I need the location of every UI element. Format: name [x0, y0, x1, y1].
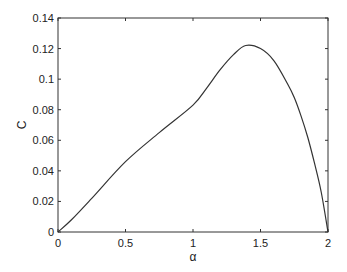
x-axis-ticks: 00.511.52 — [55, 18, 331, 249]
x-tick-label: 0.5 — [118, 237, 133, 249]
axes-frame — [58, 18, 328, 232]
x-axis-label: α — [190, 250, 197, 264]
line-chart: 00.511.52 00.020.040.060.080.10.120.14 α… — [0, 0, 347, 272]
y-tick-label: 0.14 — [33, 12, 54, 24]
y-tick-label: 0.08 — [33, 104, 54, 116]
y-axis-label: C — [15, 120, 29, 129]
x-tick-label: 2 — [325, 237, 331, 249]
y-tick-label: 0.12 — [33, 43, 54, 55]
y-tick-label: 0.04 — [33, 165, 54, 177]
y-tick-label: 0.02 — [33, 195, 54, 207]
x-tick-label: 1.5 — [253, 237, 268, 249]
y-tick-label: 0.1 — [39, 73, 54, 85]
y-axis-ticks: 00.020.040.060.080.10.120.14 — [33, 12, 328, 238]
x-tick-label: 0 — [55, 237, 61, 249]
y-tick-label: 0 — [48, 226, 54, 238]
x-tick-label: 1 — [190, 237, 196, 249]
data-series-line — [58, 45, 328, 232]
y-tick-label: 0.06 — [33, 134, 54, 146]
